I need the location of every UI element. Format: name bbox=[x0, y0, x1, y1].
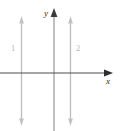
plot-canvas bbox=[0, 0, 125, 131]
x-axis-label: x bbox=[106, 77, 110, 86]
vertical-line-1-label: 1 bbox=[11, 44, 15, 53]
vertical-line-2-label: 2 bbox=[76, 44, 80, 53]
coordinate-plane-figure: y x 1 2 bbox=[0, 0, 125, 131]
vertical-line-1-arrowhead-bottom bbox=[19, 119, 24, 127]
y-axis-arrowhead bbox=[51, 8, 58, 17]
vertical-line-2-arrowhead-bottom bbox=[68, 119, 73, 127]
vertical-line-1-arrowhead-top bbox=[19, 16, 24, 24]
vertical-line-2-arrowhead-top bbox=[68, 16, 73, 24]
y-axis-label: y bbox=[44, 9, 48, 18]
